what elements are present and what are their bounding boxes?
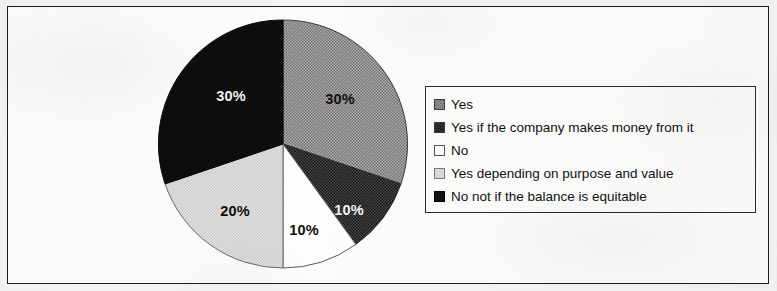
pie-chart-plot: 30% 10% 10% 20% 30% xyxy=(152,8,416,280)
legend-swatch-icon-yes-depending-on-purpose xyxy=(434,168,445,179)
legend-item-yes[interactable]: Yes xyxy=(434,93,755,116)
legend-label-yes: Yes xyxy=(451,98,473,112)
legend-item-no-not-if-balance-equitable[interactable]: No not if the balance is equitable xyxy=(434,185,755,208)
pie-chart-figure: 30% 10% 10% 20% 30% Yes Yes if the compa… xyxy=(0,0,777,291)
legend-item-no[interactable]: No xyxy=(434,139,755,162)
pie-label-yes: 30% xyxy=(325,91,355,107)
pie-svg: 30% 10% 10% 20% 30% xyxy=(152,8,416,280)
legend-item-yes-depending-on-purpose[interactable]: Yes depending on purpose and value xyxy=(434,162,755,185)
legend-label-yes-depending-on-purpose: Yes depending on purpose and value xyxy=(451,167,673,181)
legend-swatch-icon-yes-if-company-makes-money xyxy=(434,122,445,133)
legend-swatch-icon-no-not-if-balance-equitable xyxy=(434,191,445,202)
pie-label-yes-if-company-makes-money: 10% xyxy=(334,202,364,218)
legend-swatch-icon-yes xyxy=(434,99,445,110)
pie-label-yes-depending-on-purpose: 20% xyxy=(220,203,250,219)
legend-label-yes-if-company-makes-money: Yes if the company makes money from it xyxy=(451,121,694,135)
legend-swatch-icon-no xyxy=(434,145,445,156)
legend-item-yes-if-company-makes-money[interactable]: Yes if the company makes money from it xyxy=(434,116,755,139)
pie-label-no-not-if-balance-equitable: 30% xyxy=(216,88,246,104)
chart-legend: Yes Yes if the company makes money from … xyxy=(425,86,756,213)
pie-label-no: 10% xyxy=(289,222,319,238)
legend-label-no: No xyxy=(451,144,468,158)
legend-label-no-not-if-balance-equitable: No not if the balance is equitable xyxy=(451,190,647,204)
